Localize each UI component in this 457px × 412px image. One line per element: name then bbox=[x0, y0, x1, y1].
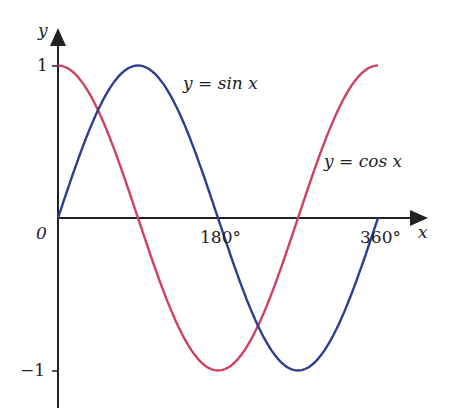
x-axis-label: x bbox=[418, 222, 428, 242]
tick-180: 180° bbox=[200, 227, 241, 247]
origin-label: 0 bbox=[36, 223, 47, 243]
cos-label: y = cos x bbox=[324, 151, 402, 171]
tick-360: 360° bbox=[360, 227, 401, 247]
chart: y x 0 1 −1 180° 360° y = sin x y = cos x bbox=[0, 0, 457, 412]
plot-area bbox=[0, 0, 457, 412]
tick-1: 1 bbox=[37, 55, 48, 75]
sin-label: y = sin x bbox=[183, 73, 258, 93]
tick-neg1: −1 bbox=[20, 360, 45, 380]
y-axis-label: y bbox=[38, 20, 48, 40]
